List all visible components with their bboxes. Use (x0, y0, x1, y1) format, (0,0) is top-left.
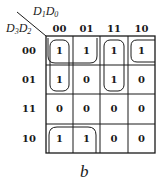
kmap-cell: 0 (128, 74, 155, 85)
row-label: 10 (18, 134, 40, 144)
kmap-cell: 0 (128, 103, 155, 114)
kmap-cell: 1 (100, 45, 128, 56)
row-label: 01 (18, 75, 40, 85)
kmap-cell: 0 (128, 133, 155, 144)
kmap-cell: 1 (46, 133, 73, 144)
kmap-cell: 0 (100, 103, 128, 114)
figure-caption: b (80, 162, 89, 182)
kmap-cell: 0 (100, 133, 128, 144)
kmap-cell: 1 (100, 74, 128, 85)
row-label: 00 (18, 46, 40, 56)
column-label: 10 (128, 24, 155, 34)
row-variables-label: D3D2 (6, 22, 31, 38)
column-label: 01 (73, 24, 100, 34)
kmap-cell: 1 (73, 45, 100, 56)
row-label: 11 (18, 104, 40, 114)
kmap-cell: 1 (128, 45, 155, 56)
kmap-cell: 1 (46, 45, 73, 56)
column-label: 11 (100, 24, 128, 34)
kmap-cell: 0 (73, 74, 100, 85)
kmap-cell: 1 (73, 133, 100, 144)
column-variables-label: D1D0 (33, 5, 58, 21)
kmap-cell: 1 (46, 74, 73, 85)
kmap-cell: 0 (73, 103, 100, 114)
column-label: 00 (46, 24, 73, 34)
kmap-cell: 0 (46, 103, 73, 114)
